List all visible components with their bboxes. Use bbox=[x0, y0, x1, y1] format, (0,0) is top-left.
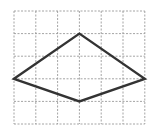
dashed-grid bbox=[14, 11, 145, 124]
grid-diagram bbox=[0, 0, 157, 127]
